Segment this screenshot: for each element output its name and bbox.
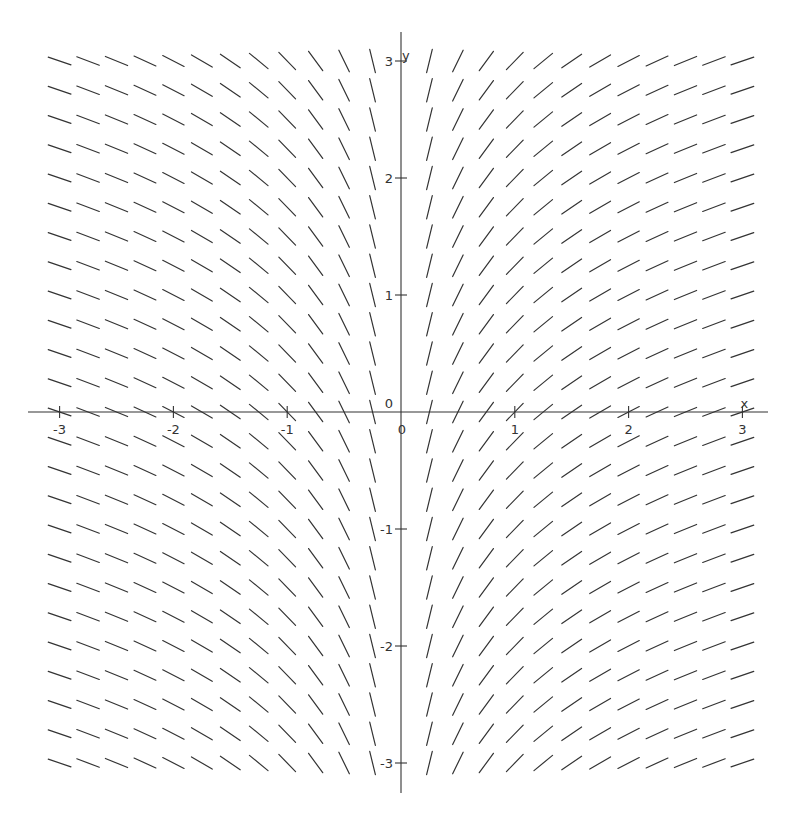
slope-segment [48,379,71,387]
slope-segment [703,525,725,533]
slope-segment [703,57,725,65]
slope-segment [453,372,463,394]
slope-segment [427,196,433,219]
slope-segment [562,727,582,741]
slope-segment [674,641,696,650]
slope-segment [479,285,493,304]
slope-segment [48,584,71,592]
slope-segment [703,262,725,270]
slope-segment [534,580,553,595]
slope-segment [134,729,156,739]
slope-segment [453,284,463,306]
slope-segment [163,611,184,622]
slope-segment [105,466,127,475]
slope-segment [339,196,349,218]
slope-segment [618,670,639,681]
slope-segment [562,756,582,770]
slope-segment [48,350,71,358]
slope-segment [674,320,696,329]
slope-segment [220,83,240,97]
slope-segment [309,753,323,772]
slope-segment [163,319,184,330]
slope-segment [731,759,754,767]
slope-segment [249,668,268,683]
slope-segment [534,200,553,215]
slope-segment [453,635,463,657]
slope-segment [134,349,156,359]
slope-segment [339,284,349,306]
slope-segment [339,606,349,628]
slope-segment [279,169,296,186]
slope-segment [618,758,639,769]
slope-segment [279,550,296,567]
slope-segment [220,756,240,770]
slope-segment [370,371,376,394]
slope-segment [590,757,611,769]
slope-segment [703,437,725,445]
slope-segment [220,113,240,127]
slope-segment [279,228,296,245]
slope-segment [590,55,611,67]
slope-segment [134,56,156,66]
slope-segment [646,670,668,680]
slope-segment [562,698,582,712]
slope-segment [479,695,493,714]
slope-segment [479,432,493,451]
slope-segment [703,642,725,650]
slope-segment [77,232,99,240]
slope-segment [163,699,184,710]
slope-segment [163,465,184,476]
slope-segment [427,79,433,102]
slope-segment [249,697,268,712]
slope-segment [339,138,349,160]
slope-segment [506,316,523,333]
slope-segment [163,143,184,154]
slope-segment [192,552,213,564]
slope-segment [370,196,376,219]
slope-segment [674,349,696,358]
slope-segment [249,287,268,302]
slope-segment [249,53,268,68]
slope-segment [590,464,611,476]
slope-segment [77,700,99,708]
slope-segment [192,464,213,476]
slope-segment [48,496,71,504]
slope-segment [674,86,696,95]
slope-segment [48,701,71,709]
slope-segment [453,664,463,686]
slope-segment [339,694,349,716]
slope-segment [48,554,71,562]
slope-segment [674,583,696,592]
slope-segment [674,115,696,124]
slope-segment [249,755,268,770]
slope-segment [427,49,433,72]
slope-segment [674,700,696,709]
slope-segment [534,755,553,770]
slope-segment [77,437,99,445]
slope-segment [249,638,268,653]
slope-segment [618,582,639,593]
slope-segment [618,231,639,242]
slope-segment [192,113,213,125]
slope-segment [618,436,639,447]
slope-segment [506,228,523,245]
slope-segment [646,583,668,593]
slope-segment [309,256,323,275]
slope-segment [163,85,184,96]
slope-segment [370,49,376,72]
slope-segment [249,375,268,390]
slope-segment [134,670,156,680]
slope-segment [506,608,523,625]
slope-segment [562,113,582,127]
slope-segment [479,110,493,129]
slope-segment [590,377,611,389]
slope-segment [674,173,696,182]
slope-segment [590,669,611,681]
slope-segment [453,313,463,335]
slope-segment [731,496,754,504]
slope-segment [427,430,433,453]
slope-segment [618,699,639,710]
slope-segment [703,349,725,357]
slope-segment [192,435,213,447]
slope-segment [646,700,668,710]
